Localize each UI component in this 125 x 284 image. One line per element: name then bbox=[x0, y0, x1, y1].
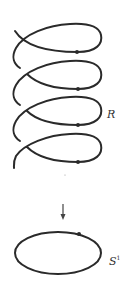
helix-label-text: R bbox=[107, 108, 115, 121]
circle-label-text: S bbox=[109, 255, 117, 268]
diagram-canvas bbox=[0, 0, 125, 284]
helix-loop-4 bbox=[14, 134, 101, 168]
down-arrow-icon bbox=[61, 204, 66, 220]
helix-point-1 bbox=[75, 50, 79, 54]
helix-R bbox=[13, 24, 101, 168]
helix-point-4 bbox=[76, 160, 80, 164]
helix-marked-points bbox=[75, 50, 80, 164]
circle-S1 bbox=[15, 232, 101, 274]
circle-point bbox=[77, 232, 81, 236]
helix-label: R bbox=[107, 109, 115, 120]
covering-space-diagram: R S1 bbox=[0, 0, 125, 284]
circle-label: S1 bbox=[109, 255, 120, 267]
stray-mark bbox=[64, 174, 65, 175]
helix-point-2 bbox=[76, 87, 80, 91]
circle-label-superscript: 1 bbox=[117, 254, 121, 261]
helix-point-3 bbox=[76, 123, 80, 127]
